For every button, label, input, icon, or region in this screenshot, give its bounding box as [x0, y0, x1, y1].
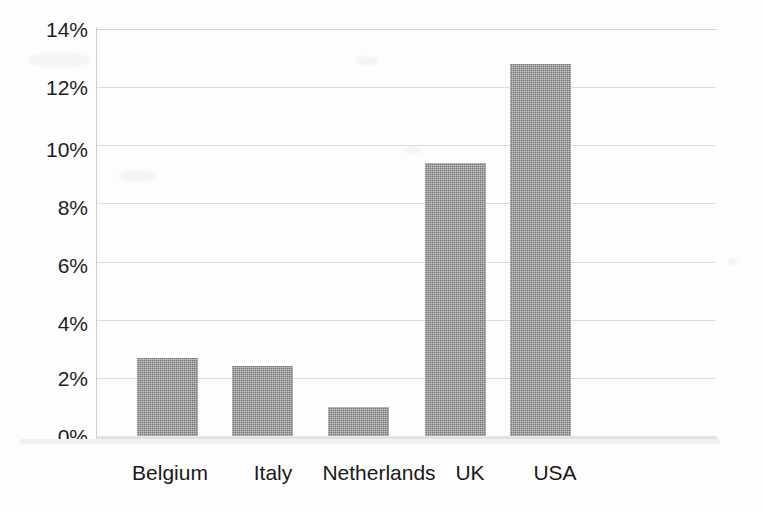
scan-artifact — [728, 258, 737, 266]
x-axis-tick-label-uk: UK — [455, 462, 484, 483]
bar-usa — [510, 64, 571, 436]
x-axis-tick-label-netherlands: Netherlands — [322, 462, 435, 483]
gridline-14 — [97, 29, 716, 30]
y-axis-tick-label: 2% — [14, 368, 88, 389]
x-axis-line — [97, 436, 717, 439]
y-axis-tick-label: 12% — [14, 77, 88, 98]
bar-italy — [232, 366, 293, 436]
gridline-12 — [97, 87, 716, 88]
x-axis-tick-label-usa: USA — [533, 462, 576, 483]
plot-area — [97, 29, 716, 436]
y-axis-tick-label: 6% — [14, 255, 88, 276]
y-axis-tick-labels: 14% 12% 10% 8% 6% 4% 2% 0% — [4, 0, 88, 512]
y-axis-tick-label: 8% — [14, 197, 88, 218]
gridline-8 — [97, 203, 716, 204]
x-axis-tick-labels: Belgium Italy Netherlands UK USA — [0, 462, 763, 496]
y-axis-tick-label: 14% — [14, 19, 88, 40]
gridline-4 — [97, 320, 716, 321]
bar-netherlands — [328, 407, 389, 436]
bar-chart: 14% 12% 10% 8% 6% 4% 2% 0% Belgium Italy… — [0, 0, 763, 512]
y-axis-tick-label: 4% — [14, 313, 88, 334]
x-axis-tick-label-belgium: Belgium — [132, 462, 208, 483]
y-axis-tick-label: 10% — [14, 139, 88, 160]
x-axis-tick-label-italy: Italy — [254, 462, 293, 483]
bar-belgium — [137, 358, 198, 437]
gridline-10 — [97, 145, 716, 146]
x-axis-shadow — [20, 439, 720, 444]
gridline-6 — [97, 262, 716, 263]
bar-uk — [425, 163, 486, 436]
